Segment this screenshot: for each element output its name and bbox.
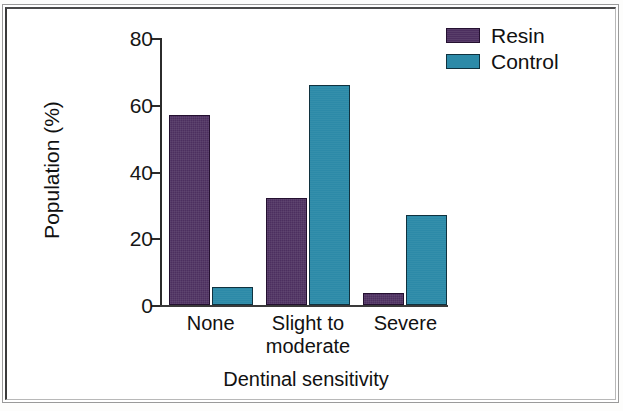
y-axis-tick-label: 60	[130, 94, 153, 115]
x-axis-category-label-line: moderate	[243, 335, 373, 358]
bar-resin-none	[169, 115, 210, 305]
y-axis-title: Population (%)	[40, 0, 64, 50]
y-axis-title-text: Population (%)	[40, 50, 64, 290]
resin-swatch-icon	[446, 28, 480, 43]
legend-item-label: Resin	[491, 25, 545, 46]
bar-group	[363, 38, 447, 305]
x-axis-spine	[156, 305, 448, 307]
x-axis-category-label-line: Severe	[340, 312, 470, 335]
chart-legend: ResinControl	[446, 22, 559, 74]
y-axis-tick-label: 20	[130, 228, 153, 249]
legend-item-resin[interactable]: Resin	[446, 22, 559, 48]
bar-control-slight-to-moderate	[309, 85, 350, 305]
control-swatch-icon	[446, 54, 480, 69]
y-axis-tick-label: 80	[130, 28, 153, 49]
bar-group	[266, 38, 350, 305]
bar-control-none	[212, 287, 253, 305]
bar-control-severe	[406, 215, 447, 305]
bar-resin-severe	[363, 293, 404, 305]
legend-item-control[interactable]: Control	[446, 48, 559, 74]
figure-chart-dentinal-sensitivity: Population (%) 020406080 NoneSlight tomo…	[0, 0, 623, 411]
plot-area: 020406080	[160, 38, 452, 306]
x-axis-category-labels: NoneSlight tomoderateSevere	[160, 312, 452, 364]
bar-group	[169, 38, 253, 305]
x-axis-title: Dentinal sensitivity	[160, 368, 452, 391]
legend-item-label: Control	[491, 51, 559, 72]
x-axis-category-label: Severe	[340, 312, 470, 335]
y-axis-tick-label: 40	[130, 161, 153, 182]
bar-resin-slight-to-moderate	[266, 198, 307, 305]
y-axis-spine	[160, 38, 162, 306]
